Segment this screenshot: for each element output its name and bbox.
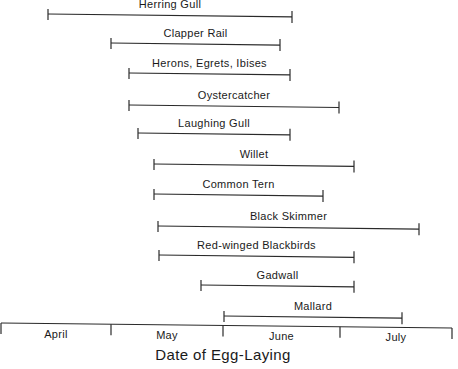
range-line bbox=[201, 285, 354, 287]
month-label: June bbox=[269, 330, 294, 342]
range-line bbox=[158, 226, 419, 229]
range-bar: Red-winged Blackbirds bbox=[159, 239, 354, 263]
range-bar: Common Tern bbox=[154, 178, 323, 202]
range-line bbox=[138, 133, 290, 135]
range-line bbox=[159, 255, 354, 257]
axis-line bbox=[1, 323, 452, 328]
bar-label: Common Tern bbox=[202, 178, 274, 190]
month-label: April bbox=[44, 328, 68, 340]
range-bar: Laughing Gull bbox=[138, 117, 290, 141]
bar-label: Herons, Egrets, Ibises bbox=[152, 57, 267, 69]
bar-label: Laughing Gull bbox=[178, 117, 250, 129]
range-bar: Black Skimmer bbox=[158, 210, 419, 235]
range-line bbox=[154, 164, 354, 166]
bar-label: Clapper Rail bbox=[163, 27, 227, 39]
range-line bbox=[48, 14, 292, 17]
bar-label: Herring Gull bbox=[139, 0, 201, 10]
range-bar: Clapper Rail bbox=[111, 27, 280, 51]
range-bar: Mallard bbox=[224, 300, 402, 324]
range-line bbox=[111, 43, 280, 45]
range-line bbox=[129, 105, 339, 108]
month-label: May bbox=[156, 329, 178, 341]
bar-label: Mallard bbox=[294, 300, 332, 312]
range-bar: Herons, Egrets, Ibises bbox=[129, 57, 290, 81]
month-axis: AprilMayJuneJuly bbox=[1, 323, 452, 343]
egg-laying-chart: Herring GullClapper RailHerons, Egrets, … bbox=[0, 0, 458, 369]
range-line bbox=[224, 316, 402, 318]
bar-label: Red-winged Blackbirds bbox=[197, 239, 316, 251]
x-axis-title: Date of Egg-Laying bbox=[155, 346, 291, 363]
bar-label: Willet bbox=[240, 148, 269, 160]
bar-label: Gadwall bbox=[257, 269, 299, 281]
bar-label: Black Skimmer bbox=[250, 210, 327, 222]
month-label: July bbox=[386, 331, 407, 343]
range-bar: Oystercatcher bbox=[129, 89, 339, 114]
range-line bbox=[129, 73, 290, 75]
range-bar: Herring Gull bbox=[48, 0, 292, 23]
bar-label: Oystercatcher bbox=[198, 89, 270, 101]
range-bar: Gadwall bbox=[201, 269, 354, 293]
range-bar: Willet bbox=[154, 148, 354, 172]
range-line bbox=[154, 194, 323, 196]
bars-group: Herring GullClapper RailHerons, Egrets, … bbox=[48, 0, 419, 324]
